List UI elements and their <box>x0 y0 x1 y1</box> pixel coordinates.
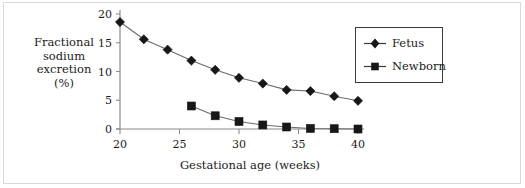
datapoint-fetus-38 <box>330 92 339 101</box>
legend-label-newborn: Newborn <box>392 59 446 73</box>
datapoint-fetus-36 <box>306 86 315 95</box>
y-axis-title: Fractional sodium excretion (%) <box>18 36 110 90</box>
y-tick-label-20: 20 <box>98 8 112 21</box>
y-axis-title-line-1: sodium <box>18 50 110 64</box>
datapoint-fetus-40 <box>353 96 362 105</box>
datapoint-fetus-28 <box>211 65 220 74</box>
x-tick-label-25: 25 <box>173 138 187 151</box>
chart-figure: 051015202025303540 Fractional sodium exc… <box>0 0 525 188</box>
datapoint-newborn-36 <box>306 124 314 132</box>
datapoint-newborn-34 <box>283 123 291 131</box>
datapoint-fetus-32 <box>258 79 267 88</box>
x-axis-title: Gestational age (weeks) <box>150 158 350 172</box>
series-fetus <box>115 17 362 105</box>
legend-item-newborn: Newborn <box>363 59 446 73</box>
y-tick-label-0: 0 <box>105 123 112 136</box>
legend-marker-square-icon <box>363 60 387 73</box>
x-tick-label-40: 40 <box>351 138 365 151</box>
x-tick-label-35: 35 <box>292 138 306 151</box>
y-axis-title-line-2: excretion <box>18 63 110 77</box>
chart-legend: Fetus Newborn <box>355 27 443 83</box>
datapoint-newborn-40 <box>354 125 362 133</box>
legend-label-fetus: Fetus <box>392 36 424 50</box>
datapoint-fetus-20 <box>115 17 124 26</box>
x-tick-label-30: 30 <box>232 138 246 151</box>
y-axis-title-line-0: Fractional <box>18 36 110 50</box>
datapoint-fetus-34 <box>282 85 291 94</box>
legend-item-fetus: Fetus <box>363 36 424 50</box>
datapoint-newborn-38 <box>330 125 338 133</box>
datapoint-fetus-22 <box>139 35 148 44</box>
datapoint-fetus-30 <box>234 73 243 82</box>
series-line-fetus <box>120 22 358 101</box>
datapoint-newborn-26 <box>187 102 195 110</box>
datapoint-fetus-24 <box>163 45 172 54</box>
datapoint-newborn-30 <box>235 118 243 126</box>
datapoint-fetus-26 <box>187 56 196 65</box>
x-tick-label-20: 20 <box>113 138 127 151</box>
y-tick-label-5: 5 <box>105 94 112 107</box>
series-newborn <box>187 102 362 133</box>
legend-marker-diamond-icon <box>363 37 387 50</box>
datapoint-newborn-32 <box>259 121 267 129</box>
y-axis-title-line-3: (%) <box>18 77 110 91</box>
datapoint-newborn-28 <box>211 112 219 120</box>
